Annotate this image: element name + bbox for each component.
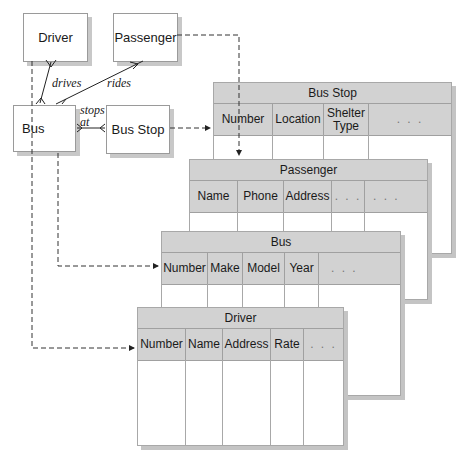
entity-bus: Bus bbox=[13, 105, 76, 152]
column-header: Address bbox=[223, 329, 271, 360]
column-header: Number bbox=[214, 104, 273, 135]
column-header-ellipsis: . . . bbox=[365, 181, 427, 212]
column-header: Model bbox=[243, 253, 285, 284]
driver-table: Driver Number Name Address Rate . . . bbox=[137, 307, 344, 446]
column-header: Rate bbox=[271, 329, 304, 360]
driver-table-columns: Number Name Address Rate . . . bbox=[138, 329, 343, 361]
column-header: Phone bbox=[238, 181, 284, 212]
column-header-ellipsis: . . . bbox=[319, 253, 400, 284]
driver-table-title: Driver bbox=[138, 308, 343, 329]
relationship-label-at: at bbox=[80, 116, 89, 128]
column-header: Address bbox=[284, 181, 332, 212]
mapping-arrow-bus bbox=[58, 153, 158, 266]
column-header: Name bbox=[186, 329, 223, 360]
passenger-table-title: Passenger bbox=[190, 160, 427, 181]
entity-bus-stop: Bus Stop bbox=[106, 105, 170, 154]
passenger-table-columns: Name Phone Address . . . . . . bbox=[190, 181, 427, 213]
bus-table-title: Bus bbox=[162, 232, 400, 253]
column-header-ellipsis: . . . bbox=[369, 104, 451, 135]
column-header-ellipsis: . . . bbox=[332, 181, 365, 212]
driver-table-body bbox=[138, 360, 343, 445]
column-header: Number bbox=[138, 329, 186, 360]
relationship-label-rides: rides bbox=[107, 77, 131, 89]
column-header-ellipsis: . . . bbox=[304, 329, 343, 360]
entity-driver: Driver bbox=[23, 13, 88, 62]
bus-table-columns: Number Make Model Year . . . bbox=[162, 253, 400, 285]
bus-stop-table-columns: Number Location Shelter Type . . . bbox=[214, 104, 451, 136]
bus-stop-table-title: Bus Stop bbox=[214, 83, 451, 104]
relationship-label-drives: drives bbox=[52, 77, 81, 89]
column-header: Make bbox=[208, 253, 243, 284]
entity-passenger: Passenger bbox=[113, 13, 178, 62]
column-header: Shelter Type bbox=[324, 104, 369, 135]
column-header: Location bbox=[273, 104, 324, 135]
column-header: Year bbox=[285, 253, 319, 284]
column-header: Name bbox=[190, 181, 238, 212]
column-header: Number bbox=[162, 253, 208, 284]
